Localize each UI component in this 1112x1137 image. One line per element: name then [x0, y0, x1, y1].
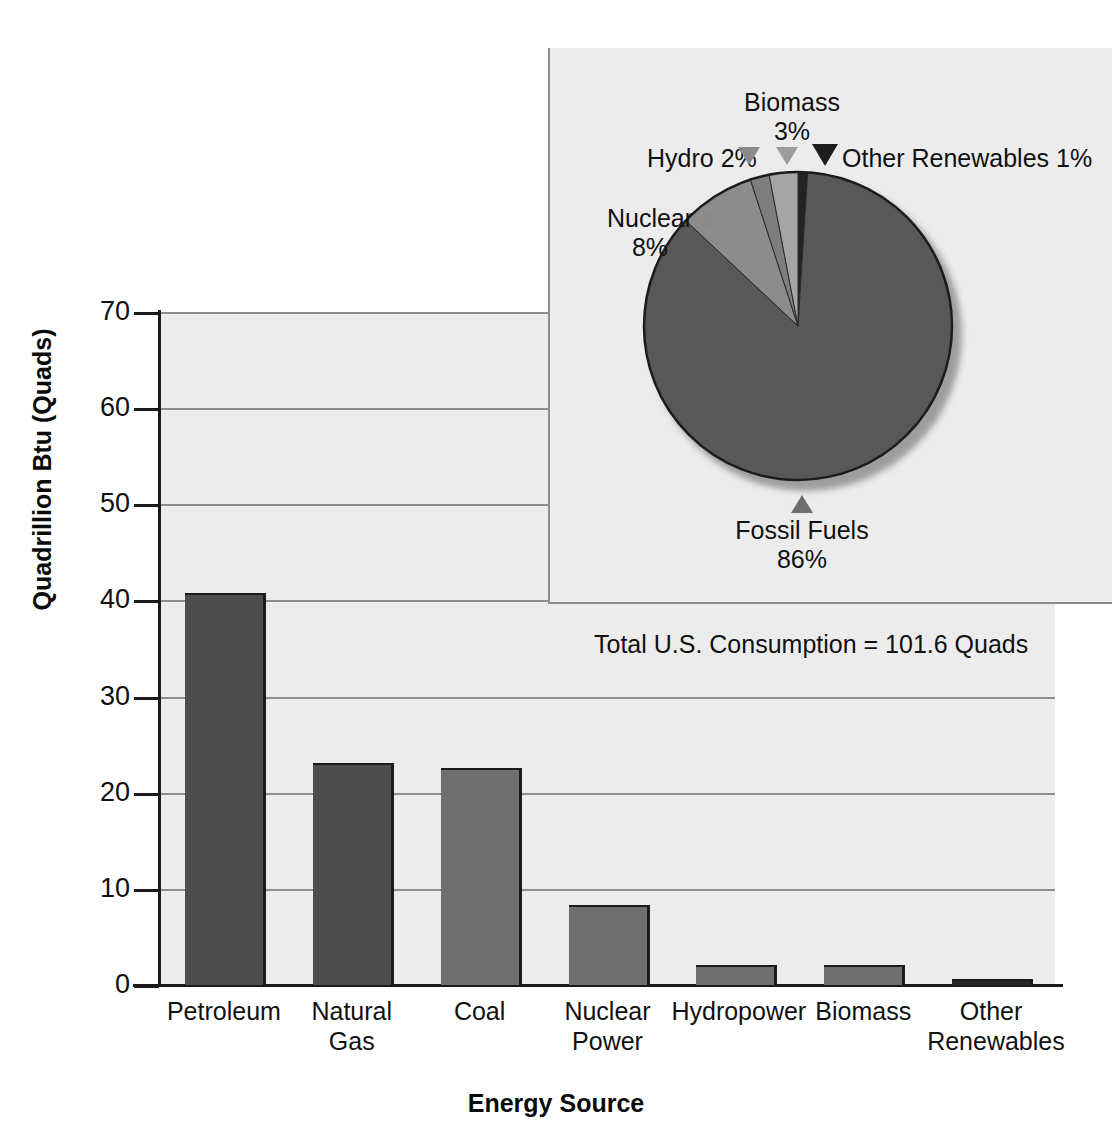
pie-label-fossil-pct: 86% — [777, 545, 827, 573]
y-axis-tick-label: 40 — [72, 586, 130, 613]
pie-label-biomass: Biomass 3% — [732, 88, 852, 146]
x-axis-tick-label: Natural Gas — [288, 996, 416, 1056]
nuclear-pointer-icon — [703, 209, 721, 231]
pie-label-other-renewables: Other Renewables 1% — [842, 144, 1092, 173]
x-axis-tick-labels: PetroleumNatural GasCoalNuclearPowerHydr… — [133, 996, 1063, 1076]
bar — [185, 593, 266, 985]
pie-label-biomass-pct: 3% — [774, 117, 810, 145]
y-axis-tick — [134, 985, 159, 988]
y-axis-tick — [134, 408, 159, 411]
x-axis-title: Energy Source — [0, 1089, 1112, 1118]
y-axis-tick-labels: 010203040506070 — [60, 0, 130, 1000]
pie-label-nuclear-name: Nuclear — [607, 204, 693, 232]
y-axis-tick — [134, 600, 159, 603]
biomass-pointer-icon — [776, 147, 798, 165]
y-axis-tick-label: 30 — [72, 683, 130, 710]
y-axis-title: Quadrillion Btu (Quads) — [28, 260, 57, 680]
pie-label-fossil-name: Fossil Fuels — [735, 516, 868, 544]
other-renewables-pointer-icon — [812, 144, 838, 166]
bar — [696, 965, 777, 985]
fossil-fuels-pointer-icon — [791, 495, 813, 513]
bar — [569, 905, 650, 985]
pie-chart-panel: Biomass 3% Hydro 2% Other Renewables 1% … — [548, 48, 1112, 604]
bar — [441, 768, 522, 985]
y-axis-tick-label: 50 — [72, 490, 130, 517]
bar — [313, 763, 394, 985]
pie-label-nuclear: Nuclear 8% — [598, 204, 702, 262]
y-axis-tick-label: 70 — [72, 298, 130, 325]
pie-label-biomass-name: Biomass — [744, 88, 840, 116]
hydro-pointer-icon — [738, 147, 760, 165]
y-axis-tick — [134, 889, 159, 892]
y-axis-tick-label: 60 — [72, 394, 130, 421]
y-axis-tick — [134, 697, 159, 700]
y-axis-tick — [134, 312, 159, 315]
x-axis-tick-label: Petroleum — [160, 996, 288, 1026]
y-axis-tick — [134, 793, 159, 796]
x-axis-tick-label: OtherRenewables — [927, 996, 1055, 1056]
x-axis-tick-label: Hydropower — [671, 996, 799, 1026]
total-consumption-annotation: Total U.S. Consumption = 101.6 Quads — [594, 630, 1028, 659]
pie-label-nuclear-pct: 8% — [632, 233, 668, 261]
y-axis-tick — [134, 504, 159, 507]
x-axis-tick-label: NuclearPower — [544, 996, 672, 1056]
y-axis-tick-label: 10 — [72, 875, 130, 902]
bar — [824, 965, 905, 985]
y-axis-tick-label: 20 — [72, 779, 130, 806]
x-axis-tick-label: Biomass — [799, 996, 927, 1026]
x-axis-tick-label: Coal — [416, 996, 544, 1026]
pie-label-fossil-fuels: Fossil Fuels 86% — [732, 516, 872, 574]
bar — [952, 979, 1033, 985]
y-axis-tick-label: 0 — [72, 971, 130, 998]
